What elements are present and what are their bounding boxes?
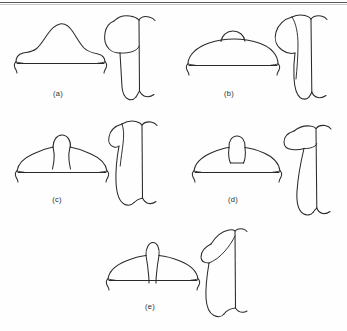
figure-label-d: (d): [218, 195, 248, 204]
panel-a-lateral: [98, 7, 160, 102]
panel-b-lateral: [270, 7, 336, 102]
top-horizontal-rule-secondary: [0, 4, 347, 5]
top-horizontal-rule: [0, 2, 347, 3]
superior-view-e: [103, 236, 203, 302]
lateral-view-e: [192, 222, 254, 322]
panel-d-lateral: [278, 115, 340, 220]
lateral-view-b: [270, 7, 336, 102]
panel-e: (e): [103, 236, 203, 302]
superior-view-d: [190, 130, 285, 194]
lateral-view-c: [102, 112, 162, 210]
figure-plate: (a) (b): [0, 0, 347, 331]
superior-view-a: [12, 18, 112, 88]
lateral-view-a: [98, 7, 160, 102]
figure-label-a: (a): [43, 89, 73, 98]
figure-label-b: (b): [214, 89, 244, 98]
panel-c: (c): [12, 128, 112, 194]
figure-label-e: (e): [135, 302, 165, 311]
superior-view-b: [183, 22, 283, 88]
panel-b: (b): [183, 22, 283, 88]
panel-e-lateral: [192, 222, 254, 322]
figure-label-c: (c): [42, 195, 72, 204]
lateral-view-d: [278, 115, 340, 220]
panel-c-lateral: [102, 112, 162, 210]
panel-a: (a): [12, 18, 112, 88]
superior-view-c: [12, 128, 112, 194]
panel-d: (d): [190, 130, 285, 194]
